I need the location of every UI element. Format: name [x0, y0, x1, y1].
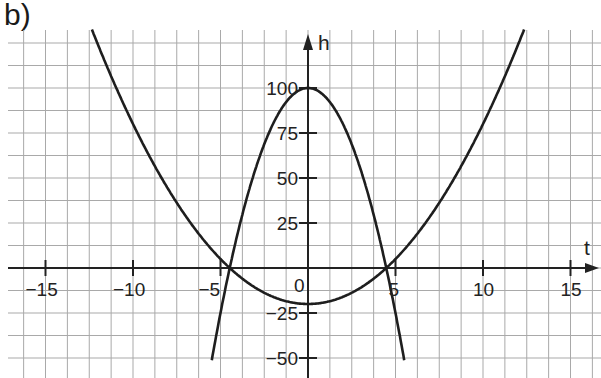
x-tick-label: −5: [199, 279, 221, 300]
x-tick-label: −15: [26, 279, 58, 300]
y-tick-label: −25: [266, 303, 298, 324]
chart: ht−15−10−551015100755025−25−500: [0, 0, 601, 378]
x-tick-label: −10: [113, 279, 145, 300]
x-axis-label: t: [584, 236, 590, 259]
y-axis-label: h: [318, 31, 330, 54]
x-tick-label: 15: [561, 279, 582, 300]
x-tick-label: 10: [473, 279, 494, 300]
x-tick-label: 5: [389, 279, 400, 300]
y-tick-label: 50: [277, 168, 298, 189]
y-tick-label: 75: [277, 123, 298, 144]
axes: [8, 34, 599, 378]
y-tick-label: 25: [277, 213, 298, 234]
y-axis-arrow-icon: [303, 34, 313, 50]
origin-label: 0: [294, 275, 305, 296]
grid: [8, 30, 601, 378]
y-tick-label: 100: [266, 78, 298, 99]
y-tick-label: −50: [266, 348, 298, 369]
